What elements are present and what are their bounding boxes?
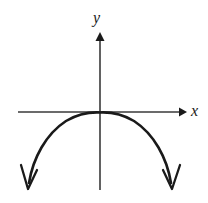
x-axis-label: x [191, 103, 198, 119]
right-branch-arrowhead-icon [163, 165, 180, 189]
x-axis-arrowhead-icon [179, 108, 187, 117]
y-axis-label: y [93, 10, 100, 26]
y-axis-arrowhead-icon [96, 32, 105, 41]
parabola-figure: y x [0, 0, 208, 203]
graph-canvas [0, 0, 208, 203]
